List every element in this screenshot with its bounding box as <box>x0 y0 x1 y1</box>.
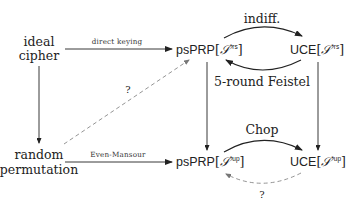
edge-chop: Chop <box>224 122 302 152</box>
feistel-arrow <box>226 60 301 70</box>
uce-up-close: ] <box>341 154 346 169</box>
psprp-rs-close: ] <box>238 42 243 57</box>
ideal-cipher-line2: cipher <box>19 48 59 63</box>
psprp-rs-name: psPRP <box>176 43 215 57</box>
edge-bottom-question: ? <box>226 173 301 200</box>
reduction-diagram: ideal cipher random permutation psPRP[𝒮*… <box>0 0 359 207</box>
node-psprp-up: psPRP[𝒮*up] <box>176 154 244 169</box>
edge-even-mansour: Even-Mansour <box>65 150 172 162</box>
random-permutation-line1: random <box>15 147 64 162</box>
node-uce-up: UCE[𝒮*up] <box>290 154 346 169</box>
chop-arrow <box>224 140 302 152</box>
psprp-up-sup: *up <box>230 155 240 163</box>
random-permutation-line2: permutation <box>0 162 78 177</box>
diagonal-dashed-arrow <box>64 60 189 144</box>
svg-text:psPRP[𝒮*up]: psPRP[𝒮*up] <box>176 154 244 169</box>
edge-indiff: indiff. <box>224 11 302 38</box>
node-uce-rs: UCE[𝒮*rs] <box>290 42 344 57</box>
psprp-up-close: ] <box>240 154 245 169</box>
edge-direct-keying: direct keying <box>65 37 172 49</box>
direct-keying-label: direct keying <box>92 37 143 46</box>
uce-up-name: UCE <box>290 155 316 169</box>
ideal-cipher-line1: ideal <box>24 34 55 49</box>
bottom-dashed-arrow <box>226 173 301 183</box>
chop-label: Chop <box>245 122 278 137</box>
svg-text:UCE[𝒮*up]: UCE[𝒮*up] <box>290 154 346 169</box>
feistel-label: 5-round Feistel <box>214 74 310 89</box>
indiff-arrow <box>224 27 302 38</box>
uce-rs-name: UCE <box>290 43 316 57</box>
edge-feistel: 5-round Feistel <box>214 60 310 89</box>
node-psprp-rs: psPRP[𝒮*rs] <box>176 42 243 57</box>
psprp-up-name: psPRP <box>176 155 215 169</box>
indiff-label: indiff. <box>244 11 280 26</box>
diagonal-question-label: ? <box>125 84 130 95</box>
uce-rs-close: ] <box>339 42 344 57</box>
edge-diagonal-question: ? <box>64 60 189 144</box>
uce-up-sup: *up <box>331 155 341 163</box>
svg-text:psPRP[𝒮*rs]: psPRP[𝒮*rs] <box>176 42 243 57</box>
node-ideal-cipher: ideal cipher <box>19 34 59 63</box>
even-mansour-label: Even-Mansour <box>90 150 146 159</box>
bottom-question-label: ? <box>259 189 264 200</box>
svg-text:UCE[𝒮*rs]: UCE[𝒮*rs] <box>290 42 344 57</box>
